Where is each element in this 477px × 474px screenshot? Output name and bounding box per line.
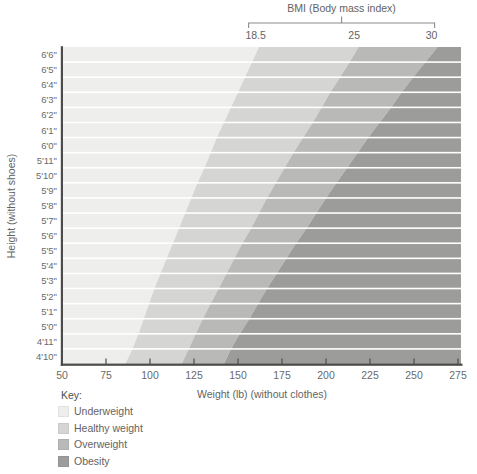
legend-swatch-underweight xyxy=(58,406,69,417)
y-tick-label: 6'0" xyxy=(0,140,57,151)
x-tick-label: 75 xyxy=(88,369,124,381)
y-tick-label: 6'3" xyxy=(0,94,57,105)
legend-item-label: Obesity xyxy=(74,455,110,467)
y-tick-label: 4'10" xyxy=(0,351,57,362)
x-tick-label: 50 xyxy=(44,369,80,381)
chart-plot-area xyxy=(0,0,477,474)
legend-title: Key: xyxy=(61,389,82,401)
bmi-bracket xyxy=(249,17,435,29)
y-tick-label: 4'11" xyxy=(0,336,57,347)
y-tick-label: 5'1" xyxy=(0,306,57,317)
legend-item-label: Healthy weight xyxy=(74,422,143,434)
bmi-axis-title: BMI (Body mass index) xyxy=(242,2,442,14)
bmi-tick-label: 30 xyxy=(412,29,452,41)
y-tick-label: 5'6" xyxy=(0,230,57,241)
y-tick-label: 5'3" xyxy=(0,275,57,286)
y-tick-label: 5'9" xyxy=(0,185,57,196)
x-tick-label: 150 xyxy=(220,369,256,381)
legend-swatch-healthy-weight xyxy=(58,423,69,434)
x-tick-label: 200 xyxy=(308,369,344,381)
x-tick-label: 175 xyxy=(264,369,300,381)
legend-swatch-overweight xyxy=(58,439,69,450)
legend-item-label: Overweight xyxy=(74,438,127,450)
bmi-tick-label: 25 xyxy=(334,29,374,41)
x-tick-label: 100 xyxy=(132,369,168,381)
legend-swatch-obesity xyxy=(58,456,69,467)
y-tick-label: 6'4" xyxy=(0,79,57,90)
x-tick-label: 225 xyxy=(352,369,388,381)
y-tick-label: 5'4" xyxy=(0,260,57,271)
bmi-chart-figure: BMI (Body mass index) 18.52530 Height (w… xyxy=(0,0,477,474)
y-tick-label: 5'5" xyxy=(0,245,57,256)
y-tick-label: 5'10" xyxy=(0,170,57,181)
legend-item-label: Underweight xyxy=(74,405,133,417)
y-tick-label: 5'0" xyxy=(0,321,57,332)
y-tick-label: 6'6" xyxy=(0,49,57,60)
y-tick-label: 6'2" xyxy=(0,109,57,120)
y-tick-label: 5'7" xyxy=(0,215,57,226)
y-tick-label: 5'2" xyxy=(0,291,57,302)
x-tick-label: 250 xyxy=(396,369,432,381)
x-axis-title: Weight (lb) (without clothes) xyxy=(157,388,367,400)
x-tick-label: 125 xyxy=(176,369,212,381)
y-tick-label: 6'5" xyxy=(0,64,57,75)
bmi-tick-label: 18.5 xyxy=(236,29,276,41)
x-tick-label: 275 xyxy=(440,369,476,381)
y-tick-label: 5'11" xyxy=(0,155,57,166)
y-tick-label: 5'8" xyxy=(0,200,57,211)
y-tick-label: 6'1" xyxy=(0,125,57,136)
